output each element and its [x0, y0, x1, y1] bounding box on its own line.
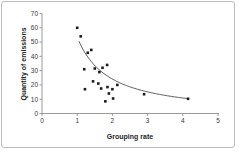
x-tick-label: 1: [75, 117, 79, 124]
x-tick-label: 4: [181, 117, 185, 124]
data-point-marker: [106, 86, 109, 89]
x-tick-label: 2: [111, 117, 115, 124]
data-point-marker: [98, 71, 101, 74]
y-tick-label: 70: [31, 10, 39, 17]
y-tick-label: 40: [31, 53, 39, 60]
data-point-marker: [84, 88, 87, 91]
x-tick-label: 0: [40, 117, 44, 124]
data-point-marker: [112, 97, 115, 100]
tick-labels: 010203040506070012345: [31, 10, 220, 124]
y-tick-label: 30: [31, 67, 39, 74]
data-points: [76, 26, 189, 102]
data-point-marker: [100, 87, 103, 90]
y-tick-label: 10: [31, 96, 39, 103]
data-point-marker: [92, 80, 95, 83]
data-point-marker: [79, 35, 82, 38]
x-axis-title: Grouping rate: [107, 133, 153, 141]
data-point-marker: [97, 82, 100, 85]
trend-line: [79, 41, 188, 98]
data-point-marker: [187, 97, 190, 100]
y-tick-label: 20: [31, 81, 39, 88]
data-point-marker: [101, 66, 104, 69]
data-point-marker: [94, 67, 97, 70]
data-point-marker: [76, 26, 79, 29]
data-point-marker: [108, 92, 111, 95]
data-point-marker: [104, 100, 107, 103]
data-point-marker: [111, 88, 114, 91]
data-point-marker: [143, 93, 146, 96]
data-point-marker: [83, 68, 86, 71]
y-tick-label: 50: [31, 38, 39, 45]
y-tick-label: 0: [34, 110, 38, 117]
data-point-marker: [116, 84, 119, 87]
data-point-marker: [106, 64, 109, 67]
y-axis-title: Quantity of emissions: [20, 27, 28, 100]
chart-screenshot: 010203040506070012345 Quantity of emissi…: [0, 0, 239, 158]
y-tick-label: 60: [31, 24, 39, 31]
x-tick-label: 5: [216, 117, 220, 124]
data-point-marker: [86, 51, 89, 54]
x-tick-label: 3: [146, 117, 150, 124]
data-point-marker: [90, 49, 93, 52]
scatter-chart: 010203040506070012345 Quantity of emissi…: [0, 0, 239, 158]
axes: [40, 14, 220, 117]
